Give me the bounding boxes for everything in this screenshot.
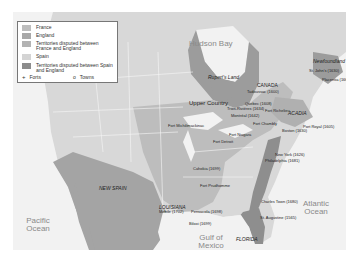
place-montreal: Montréal (1642) <box>231 114 259 118</box>
place-fort-detroit: Fort Detroit <box>213 140 233 144</box>
label-gulf-of-mexico: Gulf of Mexico <box>191 234 231 250</box>
place-placentia: Placentia (1662) <box>322 78 346 82</box>
place-charles-town: Charles Town (1680) <box>261 200 298 204</box>
swatch-disputed-france-england <box>22 41 31 47</box>
place-tadoussac: Tadoussac (1600) <box>247 90 279 94</box>
legend-item-disputed-spain-england: Territories disputed between Spain and E… <box>22 63 114 73</box>
legend-item-england: England <box>22 33 54 39</box>
place-st-augustine: St. Augustine (1565) <box>260 216 296 220</box>
place-trois-rivieres: Trois-Rivières (1634) <box>227 107 264 111</box>
place-biloxi: Biloxi (1699) <box>189 222 211 226</box>
legend-item-spain: Spain <box>22 54 49 60</box>
label-atlantic-ocean: Atlantic Ocean <box>291 200 341 216</box>
legend-item-france: France <box>22 25 52 31</box>
place-mobile: Mobile (1702) <box>159 210 183 214</box>
legend-towns: o Towns <box>73 75 94 80</box>
place-fort-chambly: Fort Chambly <box>253 122 277 126</box>
place-fort-michilimackinac: Fort Michilimackinac <box>168 124 204 128</box>
label-upper-country: Upper Country <box>189 100 228 106</box>
swatch-disputed-spain-england <box>22 63 31 69</box>
legend-item-disputed-france-england: Territories disputed between France and … <box>22 41 114 51</box>
label-hudson-bay: Hudson Bay <box>189 40 233 48</box>
label-canada: CANADA <box>257 82 278 88</box>
swatch-spain <box>22 54 31 60</box>
place-boston: Boston (1630) <box>282 129 307 133</box>
legend-forts: + Forts <box>22 75 41 80</box>
swatch-england <box>22 33 31 39</box>
place-st-johns: St. John's (1630) <box>309 69 339 73</box>
label-new-spain: NEW SPAIN <box>99 185 127 191</box>
map-legend: France England Territories disputed betw… <box>17 21 118 83</box>
place-fort-richelieu: Fort Richelieu <box>265 109 290 113</box>
fort-cross-icon: + <box>22 75 26 80</box>
label-newfoundland: Newfoundland <box>313 58 345 64</box>
place-fort-prudhomme: Fort Prudhomme <box>200 184 230 188</box>
swatch-france <box>22 25 31 31</box>
town-circle-icon: o <box>73 75 76 80</box>
label-florida: FLORIDA <box>236 236 258 242</box>
place-port-royal: Port Royal (1605) <box>303 125 334 129</box>
place-new-york: New York (1626) <box>275 153 305 157</box>
place-fort-niagara: Fort Niagara <box>229 133 251 137</box>
place-cahokia: Cahokia (1699) <box>193 167 220 171</box>
place-pensacola: Pensacola (1698) <box>191 210 222 214</box>
label-ruperts-land: Rupert's Land <box>208 74 239 80</box>
label-acadia: ACADIA <box>288 110 307 116</box>
place-philadelphia: Philadelphia (1681) <box>265 159 299 163</box>
label-pacific-ocean: Pacific Ocean <box>18 217 58 233</box>
